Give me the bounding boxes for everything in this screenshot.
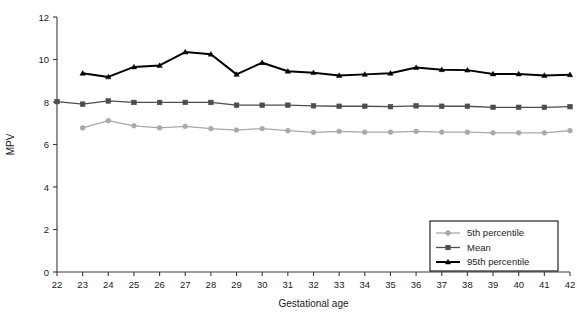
series-3 — [80, 49, 573, 79]
data-point — [157, 126, 162, 131]
data-point — [337, 104, 342, 109]
data-point — [439, 104, 444, 109]
legend-label: 5th percentile — [467, 227, 524, 238]
data-point — [465, 104, 470, 109]
y-axis-title: MPV — [5, 133, 16, 155]
data-point — [209, 100, 214, 105]
y-tick-label: 12 — [38, 12, 49, 23]
data-point — [157, 100, 162, 105]
data-point — [542, 130, 547, 135]
y-tick-label: 6 — [44, 139, 49, 150]
data-point — [414, 129, 419, 134]
data-point — [260, 103, 265, 108]
data-point — [542, 105, 547, 110]
legend-marker — [446, 231, 451, 236]
data-point — [55, 99, 60, 104]
y-tick-label: 2 — [44, 224, 49, 235]
data-point — [388, 130, 393, 135]
data-point — [311, 104, 316, 109]
data-point — [132, 123, 137, 128]
series-1 — [80, 118, 572, 135]
data-point — [260, 126, 265, 131]
data-point — [439, 130, 444, 135]
data-point — [208, 126, 213, 131]
data-point — [234, 103, 239, 108]
x-tick-label: 25 — [129, 279, 140, 290]
data-point — [106, 118, 111, 123]
data-point — [311, 130, 316, 135]
data-point — [286, 103, 291, 108]
data-point — [465, 130, 470, 135]
series-2 — [55, 99, 573, 110]
data-point — [80, 126, 85, 131]
x-tick-label: 39 — [488, 279, 499, 290]
y-tick-label: 10 — [38, 54, 49, 65]
y-tick-label: 4 — [44, 182, 49, 193]
x-tick-label: 26 — [154, 279, 165, 290]
data-point — [414, 104, 419, 109]
data-point — [132, 100, 137, 105]
data-point — [516, 130, 521, 135]
x-tick-label: 41 — [539, 279, 550, 290]
x-tick-label: 35 — [385, 279, 396, 290]
legend-label: Mean — [467, 242, 491, 253]
x-tick-label: 28 — [206, 279, 217, 290]
x-tick-label: 40 — [513, 279, 524, 290]
x-tick-label: 27 — [180, 279, 191, 290]
data-point — [568, 128, 573, 133]
data-point — [183, 100, 188, 105]
x-tick-label: 31 — [283, 279, 294, 290]
data-point — [106, 99, 111, 104]
legend-marker — [446, 245, 451, 250]
x-tick-label: 22 — [52, 279, 63, 290]
x-axis-title: Gestational age — [278, 298, 348, 309]
data-series-group — [55, 49, 573, 135]
y-tick-label: 0 — [44, 267, 49, 278]
data-point — [363, 104, 368, 109]
x-tick-label: 42 — [565, 279, 576, 290]
data-point — [80, 102, 85, 107]
series-line — [83, 52, 570, 77]
data-point — [183, 124, 188, 129]
x-tick-label: 32 — [308, 279, 319, 290]
data-point — [388, 104, 393, 109]
data-point — [491, 105, 496, 110]
x-tick-label: 29 — [231, 279, 242, 290]
chart-container: 024681012 222324252627282930313233343536… — [0, 0, 577, 322]
y-axis-ticks: 024681012 — [38, 12, 57, 278]
data-point — [516, 105, 521, 110]
legend-label: 95th percentile — [467, 256, 529, 267]
x-tick-label: 23 — [77, 279, 88, 290]
y-tick-label: 8 — [44, 97, 49, 108]
x-tick-label: 36 — [411, 279, 422, 290]
x-tick-label: 24 — [103, 279, 114, 290]
data-point — [491, 130, 496, 135]
x-tick-label: 30 — [257, 279, 268, 290]
line-chart: 024681012 222324252627282930313233343536… — [0, 0, 577, 322]
x-tick-label: 38 — [462, 279, 473, 290]
data-point — [285, 128, 290, 133]
x-axis-ticks: 2223242526272829303132333435363738394041… — [52, 272, 576, 290]
data-point — [234, 128, 239, 133]
series-line — [83, 121, 570, 133]
data-point — [337, 129, 342, 134]
x-tick-label: 33 — [334, 279, 345, 290]
x-tick-label: 34 — [360, 279, 371, 290]
data-point — [362, 130, 367, 135]
x-tick-label: 37 — [436, 279, 447, 290]
data-point — [568, 104, 573, 109]
chart-legend: 5th percentileMean95th percentile — [430, 221, 558, 271]
